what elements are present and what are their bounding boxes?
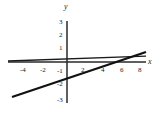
y-tick-label-neg3: -3 <box>57 97 63 104</box>
x-tick-label-neg2: -2 <box>40 67 46 74</box>
y-tick-label-1: 1 <box>59 45 63 52</box>
x-tick-label-neg4: -4 <box>20 67 26 74</box>
x-tick-label-6: 6 <box>120 67 124 74</box>
y-tick-label-neg1: -1 <box>57 68 63 75</box>
x-tick-label-4: 4 <box>101 67 105 74</box>
coordinate-plane-chart: y x 3 2 1 -1 -2 -3 -4 -2 2 4 6 8 <box>0 0 160 114</box>
x-tick-label-2: 2 <box>81 67 85 74</box>
x-axis-label: x <box>148 58 152 66</box>
y-tick-label-2: 2 <box>59 32 63 39</box>
y-axis-label: y <box>64 3 68 11</box>
chart-canvas <box>0 0 160 114</box>
y-tick-label-3: 3 <box>59 19 63 26</box>
x-tick-label-8: 8 <box>138 67 142 74</box>
y-tick-label-neg2: -2 <box>57 81 63 88</box>
